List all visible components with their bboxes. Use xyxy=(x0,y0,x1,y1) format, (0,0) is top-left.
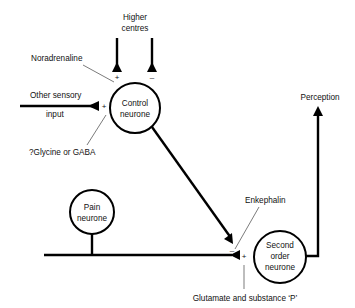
pain-neurone-label-2: neurone xyxy=(77,214,107,223)
higher-centres-label-2: centres xyxy=(122,24,149,33)
perception-output-line xyxy=(306,114,318,256)
higher-centres-label: Higher xyxy=(123,13,147,22)
noradrenaline-pointer xyxy=(83,65,114,82)
pain-neurone-label: Pain xyxy=(84,203,101,212)
inhibitory-arrowhead-icon xyxy=(147,62,157,72)
enkephalin-label: Enkephalin xyxy=(245,196,286,205)
higher-minus-sign: – xyxy=(150,73,155,82)
second-order-label-2: order xyxy=(270,252,289,261)
sensory-plus-sign: + xyxy=(102,102,107,111)
control-to-second-order-line xyxy=(152,127,231,238)
glycine-gaba-label: ?Glycine or GABA xyxy=(29,148,96,157)
glutamate-label: Glutamate and substance ‘P’ xyxy=(193,294,298,303)
pain-neurone-node xyxy=(70,190,114,234)
other-sensory-label-2: input xyxy=(46,110,64,119)
sensory-arrowhead-icon xyxy=(88,101,99,111)
control-neurone-label-2: neurone xyxy=(120,110,150,119)
second-order-label: Second xyxy=(266,241,294,250)
gate-control-diagram: Higher centres + – Noradrenaline Control… xyxy=(0,0,355,308)
other-sensory-label: Other sensory xyxy=(30,91,82,100)
perception-arrowhead-icon xyxy=(313,106,323,116)
second-order-label-3: neurone xyxy=(265,263,295,272)
control-neurone-node xyxy=(110,83,160,133)
higher-plus-sign: + xyxy=(115,73,120,82)
perception-label: Perception xyxy=(300,93,340,102)
excitatory-arrowhead-icon xyxy=(112,62,122,72)
control-neurone-label: Control xyxy=(122,99,149,108)
noradrenaline-label: Noradrenaline xyxy=(31,54,83,63)
pain-plus-sign: + xyxy=(242,252,247,261)
enkephalin-pointer xyxy=(235,207,259,249)
glycine-gaba-pointer xyxy=(87,115,106,145)
